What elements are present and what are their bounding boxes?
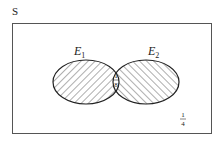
outside-numerator: 1: [181, 111, 185, 119]
venn-diagram: S E1 E2 1 8 1 4: [0, 0, 222, 143]
universe-label: S: [12, 5, 18, 17]
intersection-denominator: 8: [114, 81, 118, 89]
set-e2-label: E2: [147, 44, 159, 60]
set-e1-label: E1: [73, 44, 85, 60]
outside-denominator: 4: [181, 120, 185, 128]
intersection-numerator: 1: [114, 72, 118, 80]
